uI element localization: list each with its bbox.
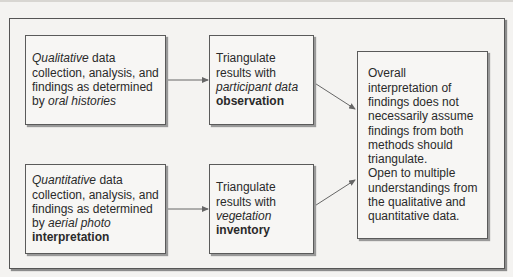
box-text-line: understandings from (368, 181, 481, 195)
triangulate-observation-box: Triangulateresults withparticipant datao… (209, 35, 314, 125)
box-text-line: findings does not (368, 95, 481, 109)
box-text-line: collection, analysis, and (32, 188, 159, 202)
box-text-line: vegetation (216, 209, 307, 223)
plain-text: necessarily assume (368, 109, 473, 123)
plain-text: results with (216, 66, 276, 80)
italic-text: Quantitative (32, 173, 96, 187)
italic-text: oral histories (48, 94, 116, 108)
box-text-line: Quantitative data (32, 173, 159, 187)
italic-text: participant data (216, 80, 298, 94)
box-text-line: Qualitative data (32, 51, 159, 65)
plain-text: collection, analysis, and (32, 188, 159, 202)
box-text-line: Open to multiple (368, 166, 481, 180)
plain-text: methods should (368, 138, 453, 152)
box-text-line: by aerial photo (32, 216, 159, 230)
box-text-line: triangulate. (368, 152, 481, 166)
quantitative-box: Quantitative datacollection, analysis, a… (25, 164, 166, 254)
bold-text: observation (216, 94, 284, 108)
plain-text: Open to multiple (368, 166, 455, 180)
box-text-line: findings as determined (32, 202, 159, 216)
bold-text: inventory (216, 223, 270, 237)
box-text-line: Overall (368, 66, 481, 80)
plain-text: understandings from (368, 181, 477, 195)
plain-text: Triangulate (216, 51, 276, 65)
plain-text: interpretation of (368, 81, 451, 95)
box-text-line: necessarily assume (368, 109, 481, 123)
arrow-observation-to-overall (313, 82, 355, 109)
arrow-inventory-to-overall (313, 180, 355, 207)
qualitative-box: Qualitative datacollection, analysis, an… (25, 35, 166, 125)
box-text-line: Triangulate (216, 51, 307, 65)
plain-text: by (32, 216, 48, 230)
plain-text: triangulate. (368, 152, 427, 166)
box-text-line: interpretation (32, 230, 159, 244)
italic-text: vegetation (216, 209, 271, 223)
box-text-line: participant data (216, 80, 307, 94)
box-text-line: interpretation of (368, 81, 481, 95)
box-text-line: collection, analysis, and (32, 66, 159, 80)
box-text-line: results with (216, 66, 307, 80)
box-text-line: Triangulate (216, 180, 307, 194)
box-text-line: quantitative data. (368, 209, 481, 223)
plain-text: findings does not (368, 95, 459, 109)
plain-text: findings as determined (32, 80, 153, 94)
plain-text: data (96, 173, 123, 187)
italic-text: Qualitative (32, 51, 89, 65)
box-text-line: findings from both (368, 124, 481, 138)
box-text-line: by oral histories (32, 94, 159, 108)
plain-text: collection, analysis, and (32, 66, 159, 80)
box-text-line: inventory (216, 223, 307, 237)
box-text-line: the qualitative and (368, 195, 481, 209)
plain-text: the qualitative and (368, 195, 465, 209)
plain-text: Overall (368, 66, 406, 80)
triangulate-inventory-box: Triangulateresults withvegetationinvento… (209, 164, 314, 254)
italic-text: aerial photo (48, 216, 111, 230)
box-text-line: observation (216, 94, 307, 108)
bold-text: interpretation (32, 230, 109, 244)
plain-text: data (89, 51, 116, 65)
plain-text: findings from both (368, 124, 463, 138)
box-text-line: results with (216, 195, 307, 209)
box-text-line: findings as determined (32, 80, 159, 94)
plain-text: findings as determined (32, 202, 153, 216)
plain-text: quantitative data. (368, 209, 459, 223)
plain-text: results with (216, 195, 276, 209)
box-text-line: methods should (368, 138, 481, 152)
plain-text: by (32, 94, 48, 108)
overall-interpretation-box: Overallinterpretation offindings does no… (357, 51, 488, 239)
plain-text: Triangulate (216, 180, 276, 194)
